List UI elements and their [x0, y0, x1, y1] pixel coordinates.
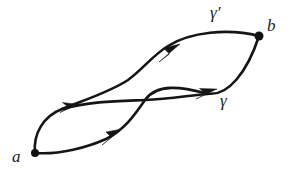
label-point-a: a: [12, 148, 21, 165]
point-a-dot: [31, 149, 39, 157]
arrow-upper-right-icon: [159, 44, 180, 62]
label-curve-gamma: γ: [220, 92, 227, 109]
arrow-lower-left-icon: [102, 129, 122, 145]
path-diagram: [0, 0, 290, 169]
label-point-b: b: [267, 17, 276, 34]
figure-canvas: a b γ γ′: [0, 0, 290, 169]
label-curve-gamma-prime: γ′: [210, 4, 220, 21]
point-b-dot: [255, 32, 264, 41]
